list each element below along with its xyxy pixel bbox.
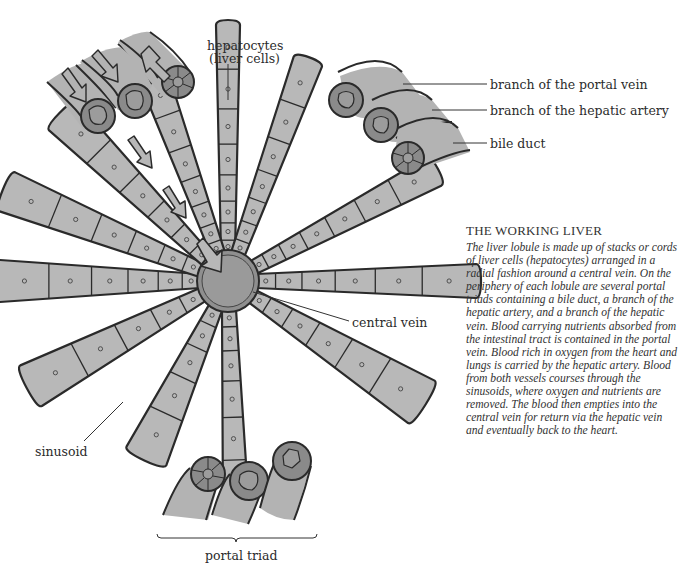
label-central-vein: central vein <box>352 315 427 330</box>
label-portal-vein: branch of the portal vein <box>490 77 648 92</box>
label-sinusoid: sinusoid <box>35 444 87 459</box>
hepatocyte-cord <box>248 290 436 423</box>
portal-triad-right <box>329 61 470 174</box>
label-portal-triad: portal triad <box>205 548 277 563</box>
figure-title: THE WORKING LIVER <box>466 223 678 239</box>
figure-caption-text: The liver lobule is made up of stacks or… <box>466 241 678 437</box>
label-hepatic-artery: branch of the hepatic artery <box>490 103 669 118</box>
hepatocyte-cord <box>256 264 481 298</box>
label-hepatocytes-line2: (liver cells) <box>209 51 280 66</box>
figure-caption: THE WORKING LIVER The liver lobule is ma… <box>466 223 678 437</box>
label-bile-duct: bile duct <box>490 136 545 151</box>
